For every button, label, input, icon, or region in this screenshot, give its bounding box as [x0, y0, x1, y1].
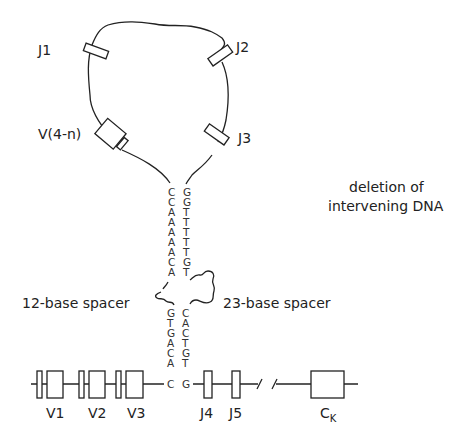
- deletion-annotation-line2: intervening DNA: [328, 198, 444, 214]
- j1-segment: [83, 43, 108, 59]
- j5-segment: [232, 371, 240, 398]
- svg-text:A: A: [168, 266, 176, 278]
- ck-segment: [311, 371, 344, 398]
- j3-segment: [204, 124, 229, 145]
- looped-dna-strand: [88, 22, 224, 183]
- svg-text:A: A: [167, 357, 175, 369]
- ck-label: CK: [320, 405, 337, 424]
- signal-sequence-bottom: G T G A C A C C A C T G T G: [166, 307, 190, 390]
- v3-segment: [116, 371, 143, 398]
- j5-label: J5: [228, 405, 242, 421]
- j3-label: J3: [237, 130, 251, 146]
- v2-label: V2: [88, 405, 106, 421]
- looped-dna-strand-right: [186, 62, 228, 184]
- v1-segment: [37, 371, 63, 398]
- v1-label: V1: [46, 405, 64, 421]
- deletion-annotation-line1: deletion of: [349, 179, 425, 195]
- 12-base-spacer-label: 12-base spacer: [22, 295, 130, 311]
- svg-text:T: T: [181, 357, 189, 369]
- v3-label: V3: [127, 405, 145, 421]
- j2-segment: [208, 45, 233, 66]
- 12-base-spacer-squiggle: [156, 282, 174, 305]
- svg-text:C: C: [167, 378, 174, 390]
- v4n-label: V(4-n): [38, 126, 81, 142]
- signal-sequence-top: C C A A A A A C A G G T T T T T G T: [168, 186, 191, 278]
- j4-segment: [204, 371, 212, 398]
- 23-base-spacer-squiggle: [190, 271, 214, 304]
- diagram-canvas: J1 J2 J3 V(4-n) C C A A A A A C A G G T …: [0, 0, 470, 445]
- ck-subscript: K: [330, 413, 337, 424]
- svg-text:T: T: [182, 266, 190, 278]
- recombination-diagram: J1 J2 J3 V(4-n) C C A A A A A C A G G T …: [0, 0, 470, 445]
- svg-text:G: G: [182, 378, 190, 390]
- j4-label: J4: [199, 405, 213, 421]
- j2-label: J2: [235, 39, 249, 55]
- 23-base-spacer-label: 23-base spacer: [223, 295, 331, 311]
- j1-label: J1: [37, 42, 51, 58]
- v2-segment: [79, 371, 105, 398]
